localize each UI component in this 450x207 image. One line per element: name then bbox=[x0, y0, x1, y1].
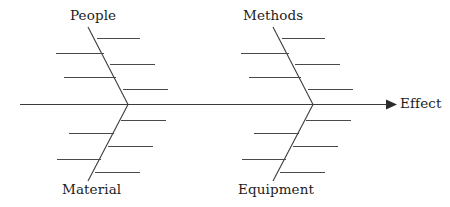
branch-line-material bbox=[88, 105, 128, 182]
branch-equipment bbox=[242, 105, 351, 182]
branch-people bbox=[56, 27, 168, 105]
category-label-material: Material bbox=[62, 183, 121, 197]
branch-methods bbox=[241, 27, 353, 105]
spine-arrowhead-icon bbox=[386, 100, 397, 110]
spine-group bbox=[20, 100, 397, 110]
category-label-equipment: Equipment bbox=[238, 183, 314, 197]
category-label-methods: Methods bbox=[243, 9, 303, 23]
fishbone-diagram-svg bbox=[0, 0, 450, 207]
category-label-people: People bbox=[70, 9, 116, 23]
fishbone-diagram-canvas: People Methods Material Equipment Effect bbox=[0, 0, 450, 207]
effect-label: Effect bbox=[400, 97, 441, 111]
branch-material bbox=[57, 105, 166, 182]
branch-line-equipment bbox=[273, 105, 313, 182]
